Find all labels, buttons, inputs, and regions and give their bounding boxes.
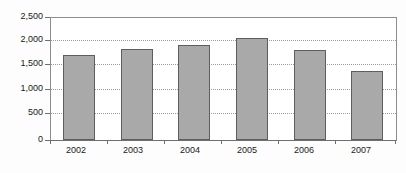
ytick-mark-500 [45, 113, 50, 114]
ytick-mark-1500 [45, 64, 50, 65]
axis-line-bottom [50, 140, 396, 141]
gridline-500 [50, 113, 396, 114]
ytick-mark-2000 [45, 40, 50, 41]
xtick-mark-6 [395, 140, 396, 144]
ytick-mark-1000 [45, 89, 50, 90]
xtick-label-2004: 2004 [170, 145, 210, 155]
axis-line-right [396, 17, 397, 141]
xtick-mark-3 [221, 140, 222, 144]
ytick-label-0: 0 [3, 135, 43, 144]
xtick-label-2006: 2006 [284, 145, 324, 155]
y-axis-labels: 2,500 2,000 1,500 1,000 500 0 [0, 0, 43, 173]
gridline-1000 [50, 89, 396, 90]
xtick-mark-1 [107, 140, 108, 144]
plot-area [50, 17, 396, 140]
gridline-2000 [50, 40, 396, 41]
xtick-label-2002: 2002 [56, 145, 96, 155]
xtick-label-2003: 2003 [113, 145, 153, 155]
axis-line-left [50, 17, 51, 141]
bar-2003[interactable] [121, 49, 153, 140]
xtick-mark-2 [164, 140, 165, 144]
ytick-label-2000: 2,000 [3, 35, 43, 44]
bar-2006[interactable] [294, 50, 326, 140]
bar-2004[interactable] [178, 45, 210, 140]
ytick-mark-2500 [45, 17, 50, 18]
bar-2005[interactable] [236, 38, 268, 140]
bar-chart-figure: — — — 2,500 2,000 1,500 1,000 500 0 2002… [0, 0, 406, 173]
xtick-mark-0 [50, 140, 51, 144]
xtick-label-2007: 2007 [341, 145, 381, 155]
ytick-label-1500: 1,500 [3, 59, 43, 68]
bar-2007[interactable] [351, 71, 383, 140]
ytick-label-2500: 2,500 [3, 12, 43, 21]
gridline-1500 [50, 64, 396, 65]
xtick-label-2005: 2005 [227, 145, 267, 155]
xtick-mark-4 [278, 140, 279, 144]
axis-line-top [50, 17, 396, 18]
ytick-label-500: 500 [3, 108, 43, 117]
bar-2002[interactable] [63, 55, 95, 140]
ytick-label-1000: 1,000 [3, 84, 43, 93]
clipped-title-remnant: — — — [58, 0, 218, 4]
xtick-mark-5 [335, 140, 336, 144]
